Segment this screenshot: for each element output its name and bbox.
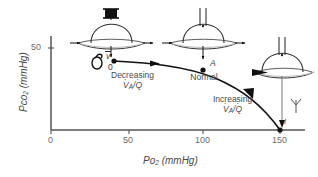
- alveolus-normal: [162, 8, 245, 59]
- annotation-normal: Normal: [183, 73, 225, 82]
- annotation-decreasing-text: Decreasing: [111, 71, 154, 80]
- y-axis-title: Pco2 (mmHg): [18, 52, 29, 112]
- annotation-increasing: Increasing ·VA/·Q: [213, 95, 252, 114]
- x-tick-label-100: 100: [195, 136, 210, 145]
- point-label-mixed-venous: v: [105, 51, 111, 61]
- annotation-decreasing: Decreasing ·VA/·Q: [111, 71, 154, 90]
- x-tick-label-0: 0: [48, 136, 53, 145]
- annotation-increasing-text: Increasing: [213, 95, 252, 104]
- alveolus-blocked-bloodflow: [252, 37, 314, 128]
- point-inspired-I: [277, 127, 282, 132]
- x-axis-title: Po2 (mmHg): [143, 156, 198, 167]
- mixed-venous-glyph: [92, 54, 102, 69]
- x-tick-label-50: 50: [123, 136, 133, 145]
- x-tick-label-150: 150: [272, 136, 287, 145]
- annotation-decreasing-ratio: ·VA/·Q: [111, 81, 154, 91]
- annotation-increasing-ratio: ·VA/·Q: [213, 105, 252, 115]
- blocked-vessel-symbol: [291, 99, 301, 113]
- y-tick-label-50: 50: [31, 43, 41, 52]
- axis-group: [48, 36, 305, 134]
- point-label-I: I: [284, 118, 286, 126]
- alveolus-blocked-airway: [70, 9, 153, 57]
- point-label-A: A: [210, 59, 216, 68]
- diagram-canvas: [0, 0, 318, 177]
- airway-blockage-icon: [105, 9, 117, 18]
- curve-arrow-decreasing: [150, 61, 160, 67]
- o2-co2-diagram: Pco2 (mmHg) 50 0 50 100 150 Po2 (mmHg) v…: [0, 0, 318, 177]
